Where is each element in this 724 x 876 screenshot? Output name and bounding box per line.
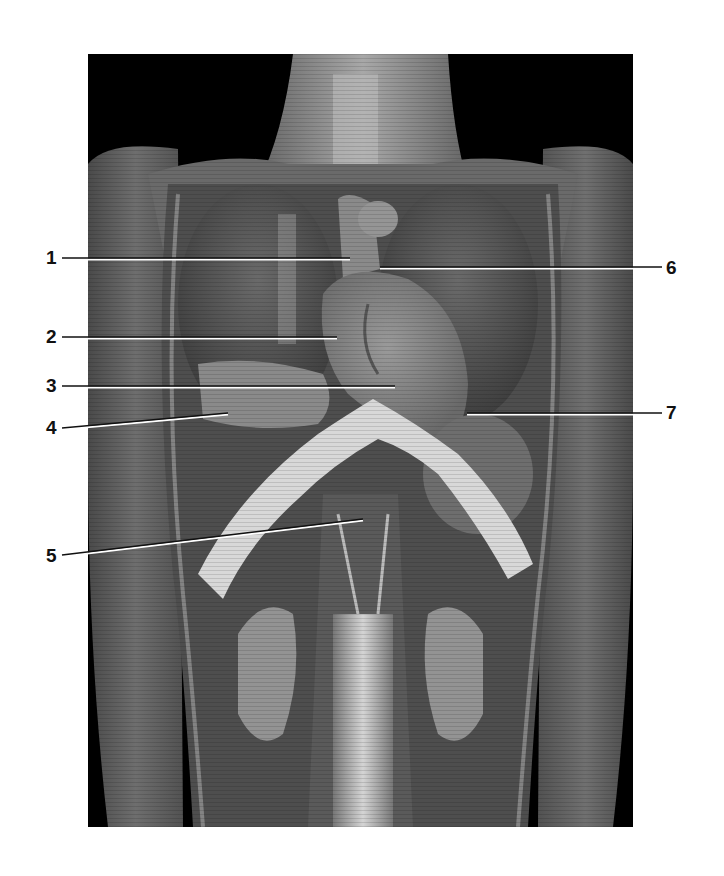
label-4: 4: [46, 418, 57, 438]
label-5: 5: [46, 546, 57, 566]
label-7: 7: [666, 403, 677, 423]
anatomy-figure: 1 2 3 4 5 6 7: [0, 0, 724, 876]
label-2: 2: [46, 327, 57, 347]
dissection-photograph: [88, 54, 633, 827]
label-3: 3: [46, 376, 57, 396]
label-6: 6: [666, 258, 677, 278]
label-1: 1: [46, 248, 57, 268]
